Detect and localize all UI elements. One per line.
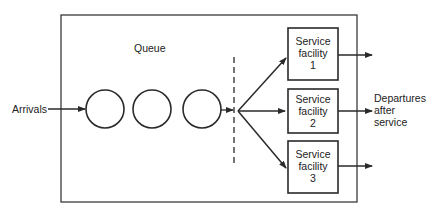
service-facility-3-number: 3 <box>288 172 338 184</box>
branch-arrow-1 <box>238 58 286 111</box>
queue-customer-1 <box>86 90 124 128</box>
service-facility-1-line1: Service <box>288 35 338 47</box>
arrivals-label: Arrivals <box>12 103 47 115</box>
queueing-diagram <box>0 0 433 211</box>
service-facility-3-line1: Service <box>288 148 338 160</box>
service-facility-2-number: 2 <box>288 117 338 129</box>
service-facility-2-label: Service facility 2 <box>288 93 338 129</box>
service-facility-2-line1: Service <box>288 93 338 105</box>
departures-label: Departures after service <box>374 92 426 128</box>
departures-line1: Departures <box>374 92 426 104</box>
departures-line3: service <box>374 116 426 128</box>
service-facility-2-line2: facility <box>288 105 338 117</box>
queue-customer-2 <box>133 90 171 128</box>
service-facility-3-line2: facility <box>288 160 338 172</box>
departures-line2: after <box>374 104 426 116</box>
branch-arrow-3 <box>238 111 286 168</box>
service-facility-1-number: 1 <box>288 59 338 71</box>
service-facility-3-label: Service facility 3 <box>288 148 338 184</box>
service-facility-1-label: Service facility 1 <box>288 35 338 71</box>
queue-label: Queue <box>134 42 166 54</box>
queue-customer-3 <box>183 90 221 128</box>
service-facility-1-line2: facility <box>288 47 338 59</box>
